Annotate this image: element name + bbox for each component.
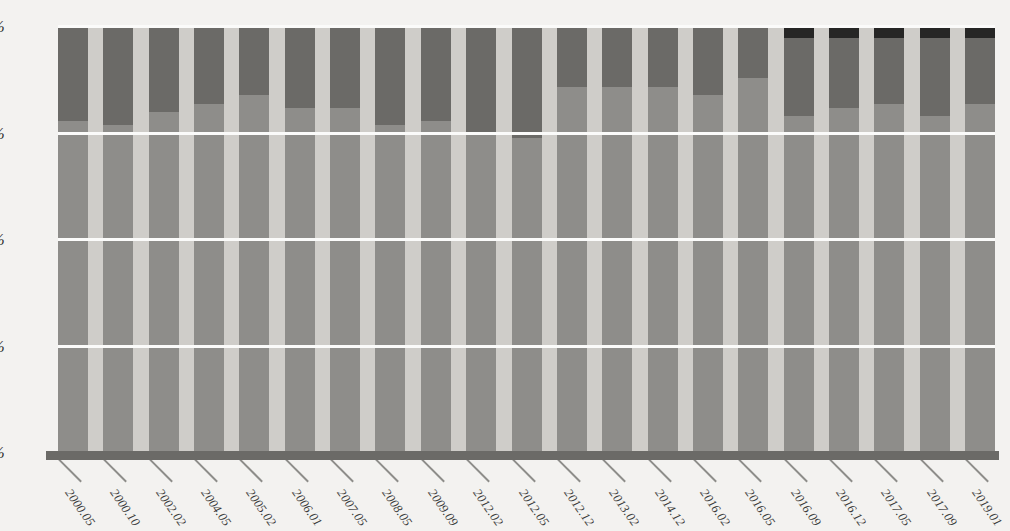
- x-axis-tick-label: 2000.10: [106, 486, 142, 529]
- gridline-25%: [58, 345, 995, 348]
- bar-segment-series-3: [874, 27, 904, 38]
- x-axis-tick-label: 2000.05: [61, 486, 97, 529]
- gridline-75%: [58, 132, 995, 135]
- x-axis-tick-label: 2016.09: [787, 486, 823, 529]
- bar-segment-series-1: [693, 95, 723, 453]
- bar-segment-series-1: [58, 121, 88, 453]
- x-axis-tick-label: 2012.02: [469, 486, 505, 529]
- tick-mark: [737, 458, 762, 483]
- bar-segment-series-2: [375, 27, 405, 125]
- tick-mark: [57, 458, 82, 483]
- tick-mark: [647, 458, 672, 483]
- bar-segment-series-1: [103, 125, 133, 453]
- x-axis-tick-label: 2017.05: [877, 486, 913, 529]
- x-axis-tick-label: 2007.05: [333, 486, 369, 529]
- bar-segment-series-1: [874, 104, 904, 453]
- bar-segment-series-2: [103, 27, 133, 125]
- tick-mark: [692, 458, 717, 483]
- bar-segment-series-1: [784, 116, 814, 453]
- bar-segment-series-2: [738, 27, 768, 78]
- bar-segment-series-1: [648, 87, 678, 453]
- bar-segment-series-2: [285, 27, 315, 108]
- x-axis-tick-label: 2005.02: [242, 486, 278, 529]
- gridline-100%: [58, 25, 995, 28]
- bar-segment-series-1: [512, 138, 542, 453]
- bar-segment-series-1: [421, 121, 451, 453]
- bar-segment-series-1: [602, 87, 632, 453]
- x-axis-tick-label: 2002.02: [152, 486, 188, 529]
- y-axis-tick-label: 75%: [0, 124, 5, 144]
- y-axis-tick-label: 100%: [0, 17, 5, 37]
- bar-segment-series-3: [965, 27, 995, 38]
- tick-mark: [556, 458, 581, 483]
- bar-segment-series-2: [829, 38, 859, 108]
- bar-segment-series-3: [784, 27, 814, 38]
- tick-mark: [102, 458, 127, 483]
- tick-mark: [238, 458, 263, 483]
- y-axis-tick-label: 25%: [0, 337, 5, 357]
- bar-segment-series-2: [149, 27, 179, 112]
- bar-segment-series-1: [466, 134, 496, 454]
- bar-segment-series-1: [375, 125, 405, 453]
- tick-mark: [374, 458, 399, 483]
- x-axis-tick-label: 2013.02: [605, 486, 641, 529]
- x-axis-tick-label: 2009.09: [424, 486, 460, 529]
- bar-segment-series-1: [557, 87, 587, 453]
- bar-segment-series-3: [829, 27, 859, 38]
- tick-mark: [511, 458, 536, 483]
- bar-segment-series-1: [149, 112, 179, 453]
- tick-mark: [601, 458, 626, 483]
- bar-segment-series-1: [194, 104, 224, 453]
- bar-segment-series-2: [784, 38, 814, 117]
- x-axis-tick-label: 2016.12: [832, 486, 868, 529]
- x-axis-tick-label: 2006.01: [288, 486, 324, 529]
- bar-segment-series-2: [194, 27, 224, 104]
- bar-segment-series-1: [330, 108, 360, 453]
- tick-mark: [465, 458, 490, 483]
- bar-segment-series-2: [920, 38, 950, 117]
- tick-mark: [193, 458, 218, 483]
- tick-mark: [284, 458, 309, 483]
- bar-segment-series-2: [874, 38, 904, 104]
- tick-mark: [919, 458, 944, 483]
- tick-mark: [420, 458, 445, 483]
- x-axis-line: [46, 451, 999, 460]
- bar-segment-series-2: [239, 27, 269, 95]
- chart-container: 0%25%50%75%100% 2000.052000.102002.02200…: [0, 0, 1010, 531]
- bar-segment-series-1: [829, 108, 859, 453]
- bar-segment-series-2: [330, 27, 360, 108]
- x-axis-tick-label: 2019.01: [968, 486, 1004, 529]
- bar-segment-series-2: [557, 27, 587, 87]
- tick-mark: [329, 458, 354, 483]
- x-axis-tick-label: 2016.05: [741, 486, 777, 529]
- bar-segment-series-2: [602, 27, 632, 87]
- tick-mark: [873, 458, 898, 483]
- plot-area: [58, 27, 995, 453]
- y-axis-tick-label: 50%: [0, 230, 5, 250]
- bar-segment-series-2: [58, 27, 88, 121]
- x-axis-tick-label: 2012.12: [560, 486, 596, 529]
- x-axis: 2000.052000.102002.022004.052005.022006.…: [0, 460, 1010, 531]
- bar-segment-series-1: [965, 104, 995, 453]
- x-axis-tick-label: 2016.02: [696, 486, 732, 529]
- bar-segment-series-2: [648, 27, 678, 87]
- tick-mark: [148, 458, 173, 483]
- x-axis-tick-label: 2014.12: [651, 486, 687, 529]
- gridline-50%: [58, 238, 995, 241]
- bar-segment-series-2: [421, 27, 451, 121]
- tick-mark: [783, 458, 808, 483]
- tick-mark: [828, 458, 853, 483]
- bar-segment-series-2: [693, 27, 723, 95]
- bar-segment-series-1: [920, 116, 950, 453]
- bar-segment-series-1: [239, 95, 269, 453]
- bar-segment-series-1: [285, 108, 315, 453]
- tick-mark: [964, 458, 989, 483]
- bar-segment-series-2: [466, 27, 496, 134]
- x-axis-tick-label: 2012.05: [515, 486, 551, 529]
- bar-segment-series-3: [920, 27, 950, 38]
- bar-segment-series-2: [965, 38, 995, 104]
- x-axis-tick-label: 2017.09: [923, 486, 959, 529]
- bar-segment-series-2: [512, 27, 542, 138]
- x-axis-tick-label: 2008.05: [378, 486, 414, 529]
- x-axis-tick-label: 2004.05: [197, 486, 233, 529]
